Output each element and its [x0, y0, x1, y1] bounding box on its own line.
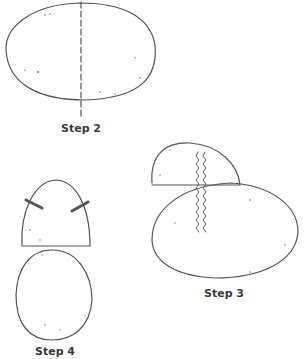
- step3-stitched-seam: [196, 152, 206, 232]
- step4-oval-shape: [16, 250, 92, 340]
- step4-label: Step 4: [35, 345, 75, 358]
- step4-dome-piece: [22, 180, 90, 246]
- craft-diagram: [0, 0, 304, 359]
- step2-label: Step 2: [61, 122, 101, 135]
- step3-label: Step 3: [204, 287, 244, 300]
- step3-oval-shape: [152, 183, 298, 278]
